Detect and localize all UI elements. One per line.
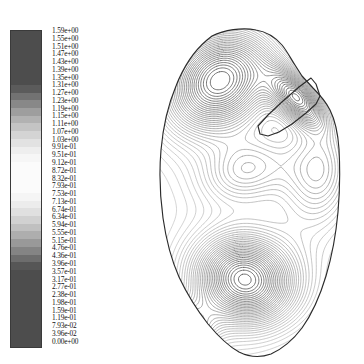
contour-line [341,20,353,38]
contour-line [317,329,353,356]
contour-line [177,327,188,336]
contour-line [292,94,299,101]
contour-line [231,267,259,291]
contour-line [339,347,353,356]
contour-line [226,263,264,296]
contour-line [152,20,176,48]
contour-line [152,20,161,31]
contour-line [234,270,256,289]
contour-line [165,314,202,347]
colorbar [10,30,42,348]
contour-line [233,155,266,179]
contour-line [224,261,266,298]
contour-line [201,20,351,356]
contour-line [285,293,353,356]
contour-line [152,20,190,62]
contour-line [157,232,299,355]
contour-plot-svg [150,18,355,358]
contour-line [322,20,353,67]
contour-lines [152,20,353,356]
contour-line [211,249,279,309]
contour-line [152,20,203,80]
contour-line [152,20,183,55]
contour-line [241,163,255,173]
contour-line [307,157,324,181]
contour-line [166,316,199,346]
contour-line [166,30,335,199]
colorbar-border [10,30,42,348]
contour-line [172,322,194,341]
contour-plot [150,18,355,358]
contour-line [220,258,270,302]
colorbar-label: 0.00e+00 [52,338,112,346]
contour-line [238,274,251,285]
contour-line [152,137,196,309]
contour-line [310,20,353,84]
contour-line [152,352,155,356]
figure-canvas: 1.59e+001.55e+001.51e+001.47e+001.43e+00… [0,0,364,364]
contour-line [245,114,297,154]
contour-line [164,312,205,348]
contour-line [168,318,198,344]
contour-line [152,349,158,356]
contour-line [228,265,261,294]
colorbar-labels: 1.59e+001.55e+001.51e+001.47e+001.43e+00… [52,27,112,351]
contour-line [216,254,274,304]
contour-line [174,324,191,339]
contour-line [170,320,196,343]
contour-line [152,346,161,356]
contour-line [210,72,229,90]
contour-line [152,20,169,40]
contour-line [152,20,196,70]
contour-line [203,65,237,96]
contour-line [152,341,163,356]
contour-line [152,129,204,313]
